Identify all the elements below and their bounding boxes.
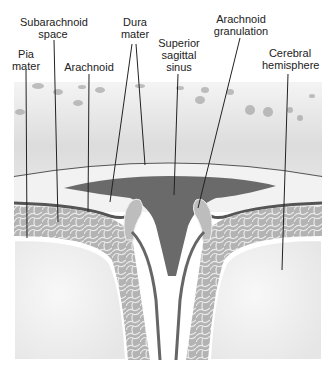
label-line: Dura [116,16,154,28]
label-line: mater [116,28,154,40]
label-line: sinus [156,61,202,73]
label-line: mater [10,60,42,72]
label-line: space [20,28,86,40]
label-line: Superior [156,37,202,49]
label-line: Arachnoid [212,13,270,25]
label-line: Cerebral [262,47,318,59]
label-subarachnoid-space: Subarachnoid space [20,16,86,40]
label-dura-mater: Dura mater [116,16,154,40]
label-line: sagittal [156,49,202,61]
label-line: granulation [212,25,270,37]
label-line: Arachnoid [64,61,114,73]
cerebral-hemisphere-right [210,240,322,360]
label-superior-sagittal-sinus: Superior sagittal sinus [156,37,202,73]
label-pia-mater: Pia mater [10,48,42,72]
label-cerebral-hemisphere: Cerebral hemisphere [262,47,318,71]
label-line: Subarachnoid [20,16,86,28]
label-arachnoid-granulation: Arachnoid granulation [212,13,270,37]
label-line: hemisphere [262,59,318,71]
label-line: Pia [10,48,42,60]
cerebral-hemisphere-left [14,240,126,360]
label-arachnoid: Arachnoid [64,61,114,73]
